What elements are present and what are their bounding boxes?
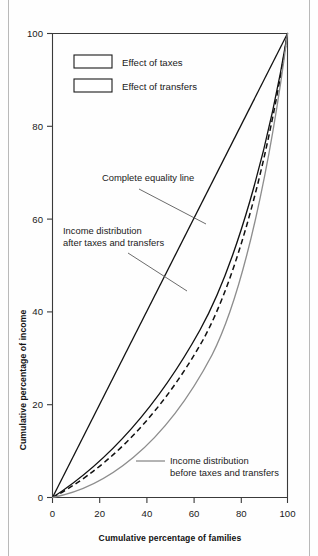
x-tick-label: 100: [279, 508, 295, 519]
annotation-after-line2: after taxes and transfers: [63, 237, 164, 248]
y-axis-ticks: [47, 34, 52, 498]
legend-swatch-effect-of-transfers: [74, 79, 112, 92]
chart-legend: Effect of taxes Effect of transfers: [74, 55, 197, 92]
x-tick-label: 20: [94, 508, 105, 519]
chart-plot-area: 100 80 60 40 20 0 0 20 40 60 80 100 Cumu…: [0, 0, 318, 556]
x-tick-label: 40: [142, 508, 153, 519]
x-tick-labels: 0 20 40 60 80 100: [50, 508, 296, 519]
x-tick-label: 0: [50, 508, 55, 519]
y-tick-labels: 100 80 60 40 20 0: [27, 28, 43, 503]
legend-label-effect-of-taxes: Effect of taxes: [122, 57, 183, 68]
y-axis-title: Cumulative percentage of income: [18, 310, 28, 451]
y-tick-label: 60: [32, 214, 43, 225]
x-tick-label: 80: [236, 508, 247, 519]
series-complete-equality-line: [53, 34, 288, 498]
y-tick-label: 40: [32, 306, 43, 317]
figure-container: 100 80 60 40 20 0 0 20 40 60 80 100 Cumu…: [0, 0, 318, 556]
y-tick-label: 100: [27, 28, 43, 39]
y-tick-label: 80: [32, 121, 43, 132]
annotation-before-line2: before taxes and transfers: [170, 467, 279, 478]
annotation-leader-after: [128, 253, 187, 291]
annotation-after-line1: Income distribution: [63, 225, 142, 236]
x-axis-title: Cumulative percentage of families: [99, 533, 242, 543]
annotation-after-taxes-and-transfers: Income distribution after taxes and tran…: [63, 225, 187, 291]
y-tick-label: 0: [38, 492, 43, 503]
y-tick-label: 20: [32, 399, 43, 410]
annotation-before-taxes-and-transfers: Income distribution before taxes and tra…: [136, 455, 279, 478]
annotation-before-line1: Income distribution: [170, 455, 249, 466]
annotation-leader-equality: [139, 189, 206, 224]
legend-label-effect-of-transfers: Effect of transfers: [122, 81, 197, 92]
x-tick-label: 60: [189, 508, 200, 519]
lorenz-curve-chart: 100 80 60 40 20 0 0 20 40 60 80 100 Cumu…: [0, 0, 318, 556]
annotation-complete-equality-line: Complete equality line: [102, 172, 206, 224]
legend-swatch-effect-of-taxes: [74, 55, 112, 68]
annotation-complete-equality-line-text: Complete equality line: [102, 172, 194, 183]
